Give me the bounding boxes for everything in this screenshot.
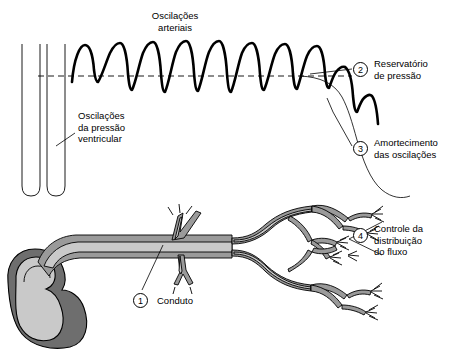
label-pressure-reservoir: Reservatório de pressão [374, 58, 454, 81]
ventricular-pressure-trace [22, 44, 65, 196]
artery-wall-main [38, 235, 232, 276]
capillary-tuft-u4 [330, 251, 342, 265]
arterial-tree-lower [232, 246, 383, 320]
label-ventricular-oscillations: Oscilações da pressão ventricular [78, 110, 173, 145]
label-flow-distribution-control: Controle da distribuição do fluxo [374, 223, 455, 258]
leader-line-ventricular [56, 133, 75, 146]
figure-container: .ln { fill: none; stroke: #000; } .thick… [0, 0, 455, 361]
label-oscillation-damping: Amortecimento das oscilações [374, 137, 455, 160]
physiology-figure: .ln { fill: none; stroke: #000; } .thick… [0, 0, 455, 361]
label-conduit: Conduto [157, 295, 217, 307]
vascular-anatomy-panel [8, 204, 384, 348]
callout-marker-1[interactable]: 1 [133, 293, 148, 308]
callout-marker-3[interactable]: 3 [353, 141, 368, 156]
leader-line-callout-2 [310, 69, 352, 74]
callout-marker-4[interactable]: 4 [353, 228, 368, 243]
capillary-tuft-u1 [372, 206, 384, 222]
label-arterial-oscillations: Oscilações arteriais [120, 10, 230, 33]
side-branch-lower [173, 255, 193, 294]
callout-marker-2[interactable]: 2 [353, 62, 368, 77]
leader-line-callout-3 [327, 98, 352, 146]
capillary-tuft-u3 [337, 236, 349, 250]
capillary-tuft-l1 [371, 283, 383, 299]
capillary-tuft-l2 [366, 305, 378, 320]
capillary-tuft-l3 [348, 251, 359, 261]
